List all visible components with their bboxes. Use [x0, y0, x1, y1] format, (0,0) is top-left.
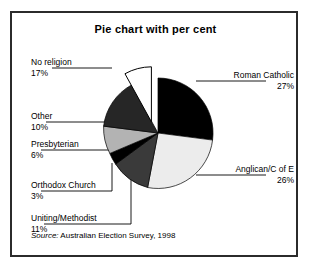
pie-slice-anglican [148, 133, 213, 188]
callout-other: Other 10% [31, 111, 52, 132]
callout-roman-catholic-label: Roman Catholic [234, 70, 294, 80]
source-note: Source: Australian Election Survey, 1998 [31, 231, 175, 240]
callout-presbyterian-value: 6% [31, 150, 79, 161]
callout-roman-catholic: Roman Catholic 27% [234, 70, 294, 91]
callout-presbyterian-label: Presbyterian [31, 139, 79, 149]
callout-uniting-methodist-label: Uniting/Methodist [31, 213, 97, 223]
callout-anglican-value: 26% [235, 175, 294, 186]
callout-presbyterian: Presbyterian 6% [31, 139, 79, 160]
source-note-label: Source: [31, 231, 59, 240]
callout-anglican-label: Anglican/C of E [235, 164, 294, 174]
callout-orthodox-church: Orthodox Church 3% [31, 180, 96, 201]
callout-orthodox-church-label: Orthodox Church [31, 180, 96, 190]
callout-roman-catholic-value: 27% [234, 81, 294, 92]
callout-no-religion-label: No religion [31, 57, 72, 67]
pie-slice-roman-catholic [158, 78, 213, 140]
callout-no-religion: No religion 17% [31, 57, 72, 78]
pie-chart-figure: Pie chart with per cent [0, 0, 311, 267]
callout-other-value: 10% [31, 122, 52, 133]
callout-other-label: Other [31, 111, 52, 121]
source-note-text: Australian Election Survey, 1998 [60, 231, 175, 240]
callout-no-religion-value: 17% [31, 68, 72, 79]
callout-orthodox-church-value: 3% [31, 191, 96, 202]
callout-anglican: Anglican/C of E 26% [235, 164, 294, 185]
